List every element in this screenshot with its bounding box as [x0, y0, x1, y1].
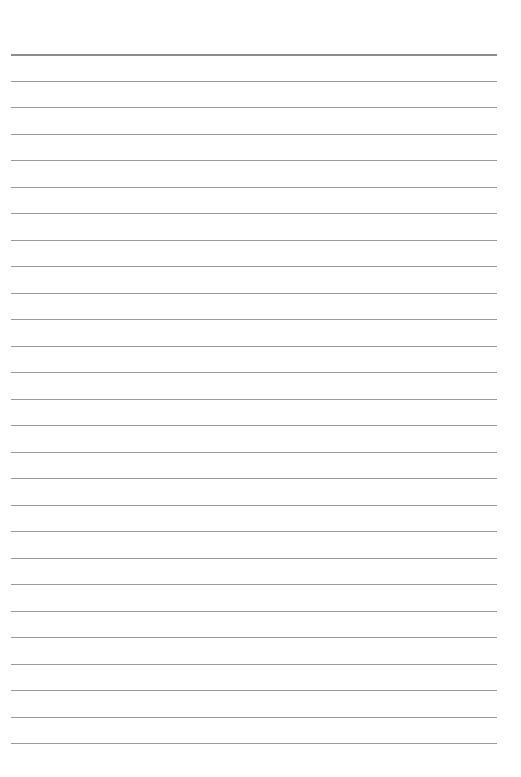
ruled-line: [11, 452, 497, 453]
ruled-line: [11, 664, 497, 665]
ruled-line: [11, 107, 497, 108]
ruled-line: [11, 637, 497, 638]
ruled-line: [11, 319, 497, 320]
ruled-line: [11, 266, 497, 267]
ruled-line: [11, 134, 497, 135]
ruled-line: [11, 584, 497, 585]
ruled-line: [11, 81, 497, 82]
ruled-line: [11, 531, 497, 532]
header-rule-line: [11, 54, 497, 56]
ruled-line: [11, 743, 497, 744]
ruled-line: [11, 372, 497, 373]
ruled-line: [11, 717, 497, 718]
ruled-line: [11, 160, 497, 161]
ruled-line: [11, 187, 497, 188]
ruled-line: [11, 213, 497, 214]
ruled-line: [11, 690, 497, 691]
ruled-line: [11, 425, 497, 426]
ruled-line: [11, 611, 497, 612]
ruled-line: [11, 399, 497, 400]
ruled-line: [11, 558, 497, 559]
ruled-line: [11, 293, 497, 294]
lined-paper-page: [0, 0, 521, 777]
ruled-line: [11, 240, 497, 241]
ruled-line: [11, 478, 497, 479]
ruled-line: [11, 505, 497, 506]
ruled-line: [11, 346, 497, 347]
